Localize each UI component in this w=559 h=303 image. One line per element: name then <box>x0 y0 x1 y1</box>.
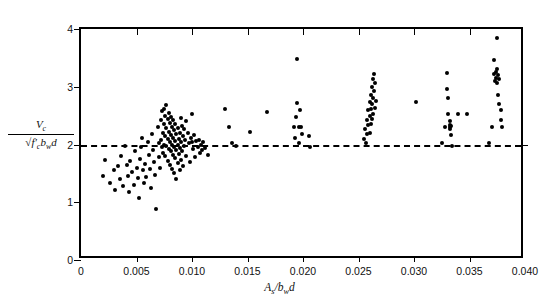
data-point <box>180 149 184 153</box>
x-tick-label: 0.020 <box>290 265 316 277</box>
data-point <box>144 175 148 179</box>
data-point <box>197 138 201 142</box>
x-tick-top <box>414 29 415 35</box>
data-point <box>116 164 120 168</box>
data-point <box>248 130 252 134</box>
data-point <box>156 125 160 129</box>
data-point <box>445 87 449 91</box>
data-point <box>223 107 227 111</box>
data-point <box>363 127 367 131</box>
data-point <box>465 112 469 116</box>
data-point <box>154 207 158 211</box>
data-point <box>456 112 460 116</box>
x-tick-top <box>470 29 471 35</box>
data-point <box>374 99 378 103</box>
plot-frame: 0123400.0050.0100.0150.0200.0250.0300.03… <box>79 27 523 258</box>
data-point <box>141 168 145 172</box>
x-tick <box>248 256 249 262</box>
data-point <box>292 125 296 129</box>
data-point <box>373 106 377 110</box>
data-point <box>157 155 161 159</box>
data-point <box>152 160 156 164</box>
y-axis-label-denominator: √f′cbwd <box>8 134 74 151</box>
data-point <box>497 77 501 81</box>
data-point <box>172 171 176 175</box>
data-point <box>137 196 141 200</box>
data-point <box>492 58 496 62</box>
data-point <box>150 132 154 136</box>
data-point <box>139 145 143 149</box>
x-tick <box>359 256 360 262</box>
data-point <box>112 168 116 172</box>
data-point <box>158 166 162 170</box>
data-point <box>371 77 375 81</box>
data-point <box>190 112 194 116</box>
y-tick-label: 2 <box>67 139 73 151</box>
y-axis-label-numerator: Vc <box>8 118 74 134</box>
data-point <box>265 110 269 114</box>
data-point <box>126 174 130 178</box>
data-point <box>190 140 194 144</box>
data-point <box>170 167 174 171</box>
data-point <box>500 125 504 129</box>
data-point <box>138 157 142 161</box>
data-point <box>159 138 163 142</box>
data-point <box>201 140 205 144</box>
x-tick-label: 0.035 <box>456 265 482 277</box>
data-point <box>448 127 452 131</box>
data-point <box>443 125 447 129</box>
x-tick-label: 0 <box>78 265 84 277</box>
data-point <box>373 81 377 85</box>
data-point <box>449 124 453 128</box>
x-tick <box>470 256 471 262</box>
data-point <box>173 156 177 160</box>
data-point <box>496 93 500 97</box>
data-point <box>440 141 444 145</box>
y-den-d: d <box>51 136 57 148</box>
data-point <box>298 108 302 112</box>
data-point <box>490 125 494 129</box>
data-point <box>103 158 107 162</box>
data-point <box>295 101 299 105</box>
data-point <box>297 141 301 145</box>
y-tick-label: 3 <box>67 81 73 93</box>
data-point <box>495 36 499 40</box>
x-tick-label: 0.010 <box>179 265 205 277</box>
data-point <box>179 158 183 162</box>
y-tick-right <box>521 145 528 146</box>
data-point <box>135 166 139 170</box>
reference-line <box>81 145 521 147</box>
data-point <box>179 116 183 120</box>
data-point <box>370 85 374 89</box>
data-point <box>371 112 375 116</box>
data-point <box>308 145 312 149</box>
data-point <box>113 188 117 192</box>
x-tick-top <box>192 29 193 35</box>
x-tick <box>303 256 304 262</box>
data-point <box>495 81 499 85</box>
data-point <box>151 148 155 152</box>
y-tick <box>74 29 81 30</box>
y-tick <box>74 145 81 146</box>
data-point <box>164 103 168 107</box>
y-num-sub: c <box>43 124 47 133</box>
x-tick <box>137 256 138 262</box>
data-point <box>446 96 450 100</box>
x-tick <box>192 256 193 262</box>
data-point <box>143 162 147 166</box>
data-point <box>162 107 166 111</box>
data-point <box>130 170 134 174</box>
data-point <box>487 141 491 145</box>
data-point <box>121 184 125 188</box>
data-point <box>184 119 188 123</box>
data-point <box>132 183 136 187</box>
x-lab-d: d <box>289 281 295 293</box>
x-tick-label: 0.015 <box>234 265 260 277</box>
data-point <box>450 144 454 148</box>
data-point <box>163 154 167 158</box>
data-point <box>188 160 192 164</box>
data-point <box>203 146 207 150</box>
data-point <box>108 181 112 185</box>
data-point <box>234 144 238 148</box>
data-point <box>186 131 190 135</box>
